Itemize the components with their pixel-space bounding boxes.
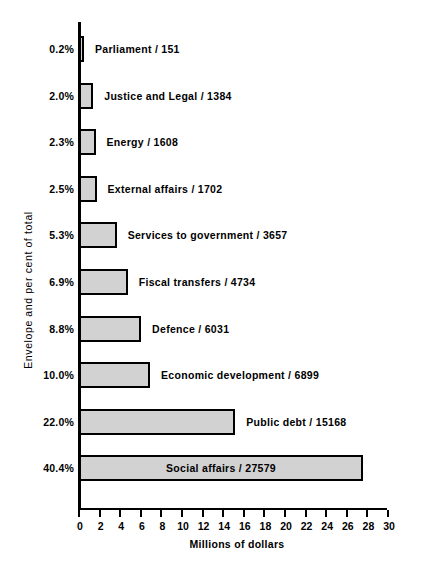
bar-label: Parliament / 151 <box>95 36 180 62</box>
x-tick <box>181 510 183 517</box>
bar <box>79 129 96 155</box>
x-tick <box>366 510 368 517</box>
x-tick <box>160 510 162 517</box>
x-tick <box>325 510 327 517</box>
bar-label: Fiscal transfers / 4734 <box>139 269 256 295</box>
x-tick <box>284 510 286 517</box>
x-axis-title: Millions of dollars <box>78 538 396 550</box>
bar <box>79 362 150 388</box>
plot-area: Parliament / 151Justice and Legal / 1384… <box>78 22 396 508</box>
bar-label: Defence / 6031 <box>152 316 229 342</box>
x-tick <box>140 510 142 517</box>
percent-label: 5.3% <box>28 229 74 241</box>
percent-label: 2.0% <box>28 90 74 102</box>
bar <box>79 83 93 109</box>
percent-label: 22.0% <box>28 416 74 428</box>
bar-label: Energy / 1608 <box>107 129 179 155</box>
x-tick <box>222 510 224 517</box>
x-tick <box>387 510 389 517</box>
bar <box>79 269 128 295</box>
percent-label: 10.0% <box>28 369 74 381</box>
bar <box>79 316 141 342</box>
bar-label: External affairs / 1702 <box>108 176 223 202</box>
bar <box>79 176 97 202</box>
bar-label: Economic development / 6899 <box>161 362 319 388</box>
y-axis-title: Envelope and per cent of total <box>22 120 36 460</box>
bar <box>79 222 117 248</box>
percent-label: 0.2% <box>28 43 74 55</box>
x-tick <box>346 510 348 517</box>
x-tick <box>78 510 80 517</box>
bar-chart: Envelope and per cent of total 0.2%2.0%2… <box>0 0 424 580</box>
x-tick <box>305 510 307 517</box>
bar <box>79 36 84 62</box>
bar: Social affairs / 27579 <box>79 455 363 481</box>
percent-label: 6.9% <box>28 276 74 288</box>
x-tick <box>202 510 204 517</box>
percent-label: 8.8% <box>28 323 74 335</box>
bar-label: Justice and Legal / 1384 <box>104 83 231 109</box>
bar <box>79 409 235 435</box>
percent-label: 40.4% <box>28 462 74 474</box>
percent-label: 2.3% <box>28 136 74 148</box>
x-tick <box>263 510 265 517</box>
x-tick <box>243 510 245 517</box>
x-tick <box>99 510 101 517</box>
x-tick <box>119 510 121 517</box>
bar-label: Public debt / 15168 <box>246 409 346 435</box>
bar-label: Social affairs / 27579 <box>81 457 361 479</box>
percent-label: 2.5% <box>28 183 74 195</box>
x-axis-line <box>78 508 387 510</box>
x-tick-label: 30 <box>377 520 401 532</box>
bar-label: Services to government / 3657 <box>128 222 288 248</box>
